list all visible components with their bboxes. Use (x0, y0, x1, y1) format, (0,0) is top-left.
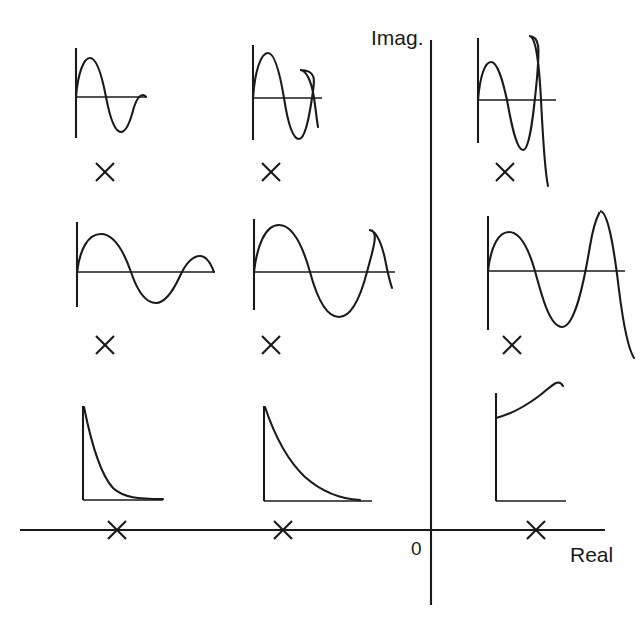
decaying-oscillation-curve (76, 58, 146, 132)
figure-canvas (0, 0, 642, 629)
response-plot-r3c3 (496, 382, 566, 501)
pole-marker-r2c2 (262, 336, 280, 354)
origin-label: 0 (411, 538, 422, 560)
response-plot-r1c3 (478, 36, 556, 186)
real-axis-label: Real (570, 543, 613, 567)
sustained-oscillation-curve (254, 225, 392, 317)
growing-oscillation-curve (488, 211, 634, 358)
response-plot-r1c1 (76, 48, 146, 138)
pole-marker-r1c3 (496, 163, 514, 181)
sustained-oscillation-curve (253, 53, 318, 139)
exponential-decay-curve (265, 407, 360, 500)
complex-plane-axes (20, 40, 605, 605)
decaying-oscillation-curve (77, 234, 214, 303)
imaginary-axis-label: Imag. (371, 26, 424, 50)
response-plot-r3c1 (83, 406, 163, 500)
response-plot-r2c2 (254, 219, 395, 317)
pole-marker-r2c1 (96, 336, 114, 354)
exponential-decay-curve (84, 407, 163, 499)
response-plot-r2c3 (488, 211, 634, 358)
pole-marker-r1c1 (96, 163, 114, 181)
pole-marker-r2c3 (503, 336, 521, 354)
pole-marker-r1c2 (262, 163, 280, 181)
exponential-growth-curve (496, 382, 563, 418)
response-plot-r1c2 (253, 45, 322, 140)
response-plot-r3c2 (264, 406, 372, 501)
response-plot-r2c1 (77, 222, 215, 307)
s-plane-pole-response-figure: Imag. Real 0 (0, 0, 642, 629)
